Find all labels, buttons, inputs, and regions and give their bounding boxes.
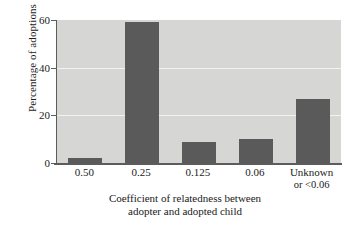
- gridline: [57, 68, 341, 69]
- x-tick-label: 0.50: [56, 166, 113, 179]
- x-tick-label-line2: or <0.06: [283, 179, 340, 192]
- x-axis-line: [54, 163, 342, 165]
- y-tick-mark: [51, 68, 56, 69]
- bar-chart-figure: Percentage of adoptions 0204060 0.500.25…: [0, 0, 353, 227]
- bar: [239, 139, 273, 163]
- x-tick-label: 0.06: [226, 166, 283, 179]
- bar: [125, 22, 159, 163]
- x-axis-title-line2: adopter and adopted child: [40, 205, 330, 218]
- x-tick-label-line1: 0.50: [75, 166, 94, 178]
- x-tick-label-line1: 0.06: [245, 166, 264, 178]
- y-tick-label: 60: [28, 15, 50, 25]
- bar: [296, 99, 330, 163]
- plot-area: [56, 20, 341, 163]
- x-axis-title-line1: Coefficient of relatedness between: [40, 192, 330, 205]
- y-tick-label: 0: [28, 158, 50, 168]
- x-tick-label: 0.25: [113, 166, 170, 179]
- x-tick-label: Unknownor <0.06: [283, 166, 340, 191]
- x-tick-label-line1: 0.25: [132, 166, 151, 178]
- y-tick-mark: [51, 163, 56, 164]
- y-tick-mark: [51, 115, 56, 116]
- y-tick-label: 40: [28, 63, 50, 73]
- x-tick-label: 0.125: [170, 166, 227, 179]
- y-tick-label: 20: [28, 110, 50, 120]
- x-tick-label-line1: Unknown: [290, 166, 333, 178]
- bar: [182, 142, 216, 163]
- x-axis-title: Coefficient of relatedness between adopt…: [40, 192, 330, 218]
- x-tick-label-line1: 0.125: [186, 166, 211, 178]
- y-tick-mark: [51, 20, 56, 21]
